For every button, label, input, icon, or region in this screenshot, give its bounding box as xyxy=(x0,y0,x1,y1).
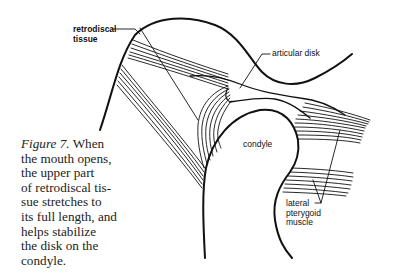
label-line: articular disk xyxy=(272,49,320,59)
retrodiscal-upper-fibers xyxy=(128,40,228,89)
label-articular-disk: articular disk xyxy=(272,49,320,59)
label-retrodiscal-tissue: retrodiscal tissue xyxy=(73,25,116,44)
caption-line: the mouth opens, xyxy=(21,152,131,167)
caption-line: sue stretches to xyxy=(21,195,131,210)
pterygoid-upper-fibers xyxy=(295,103,370,143)
figure-page: retrodiscal tissue articular disk condyl… xyxy=(0,0,393,278)
figure-caption: Figure 7. When the mouth opens, the uppe… xyxy=(21,137,131,268)
caption-line: condyle. xyxy=(21,254,131,269)
caption-line: helps stabilize xyxy=(21,225,131,240)
caption-line-first: Figure 7. When xyxy=(21,137,131,152)
label-line: muscle xyxy=(286,218,321,228)
label-lateral-pterygoid-muscle: lateral pterygoid muscle xyxy=(286,199,321,228)
caption-line: its full length, and xyxy=(21,210,131,225)
caption-line: of retrodiscal tis- xyxy=(21,181,131,196)
caption-line: the disk on the xyxy=(21,239,131,254)
caption-line: the upper part xyxy=(21,166,131,181)
caption-text: When xyxy=(70,136,105,151)
pterygoid-lower-fibers xyxy=(283,168,353,196)
label-condyle: condyle xyxy=(243,140,272,150)
figure-number: Figure 7. xyxy=(21,136,70,151)
leader-articular-disk xyxy=(240,54,270,88)
posterior-attachment-fibers xyxy=(198,86,231,168)
label-line: condyle xyxy=(243,140,272,150)
label-line: tissue xyxy=(73,35,116,45)
